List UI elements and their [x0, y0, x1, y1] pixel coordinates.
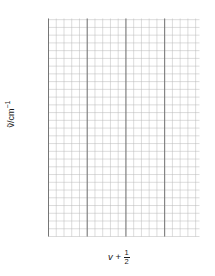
- x-axis-title-fraction: 12: [124, 249, 130, 265]
- y-axis-title-exponent: −1: [4, 101, 11, 109]
- y-axis-title: ṽ/cm−1: [4, 82, 16, 146]
- x-axis-title: v + 12: [108, 249, 130, 265]
- plot-background: [49, 19, 200, 237]
- x-axis-title-plus: +: [113, 251, 124, 262]
- figure-birge-sponer-plot: ṽ/cm−1 v + 12: [0, 0, 215, 276]
- plot-canvas: [0, 0, 215, 276]
- y-axis-title-text: ṽ/cm: [6, 109, 16, 128]
